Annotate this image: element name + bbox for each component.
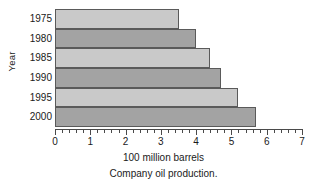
bar-1985 (55, 48, 210, 68)
bar-1995 (55, 88, 238, 108)
x-axis-major-tick (90, 130, 91, 135)
figure-caption: Company oil production. (0, 168, 327, 179)
x-axis-tick-label: 2 (114, 136, 138, 147)
x-axis-tick-label: 7 (290, 136, 314, 147)
x-axis-minor-tick (154, 130, 155, 133)
x-axis-minor-tick (69, 130, 70, 133)
x-axis-minor-tick (83, 130, 84, 133)
x-axis-minor-tick (175, 130, 176, 133)
x-axis-minor-tick (281, 130, 282, 133)
x-axis-minor-tick (147, 130, 148, 133)
x-axis-minor-tick (246, 130, 247, 133)
x-axis-major-tick (196, 130, 197, 135)
x-axis-minor-tick (168, 130, 169, 133)
x-axis-minor-tick (238, 130, 239, 133)
x-axis-major-tick (161, 130, 162, 135)
x-axis-tick-label: 4 (184, 136, 208, 147)
x-axis-major-tick (231, 130, 232, 135)
x-axis-minor-tick (288, 130, 289, 133)
y-axis-tick-label: 2000 (10, 107, 52, 127)
x-axis-minor-tick (104, 130, 105, 133)
y-axis-tick-label: 1990 (10, 68, 52, 88)
x-axis-minor-tick (295, 130, 296, 133)
y-axis-tick-label: 1980 (10, 29, 52, 49)
x-axis-minor-tick (140, 130, 141, 133)
x-axis-tick-label: 0 (43, 136, 67, 147)
x-axis-minor-tick (62, 130, 63, 133)
x-axis-minor-tick (253, 130, 254, 133)
plot-area (55, 9, 302, 127)
bar-1990 (55, 68, 221, 88)
x-axis-minor-tick (189, 130, 190, 133)
x-axis-minor-tick (76, 130, 77, 133)
x-axis-tick-label: 5 (219, 136, 243, 147)
x-axis-minor-tick (111, 130, 112, 133)
x-axis-tick-label: 1 (78, 136, 102, 147)
x-axis-major-tick (267, 130, 268, 135)
x-axis-minor-tick (260, 130, 261, 133)
y-axis-tick-label: 1985 (10, 48, 52, 68)
x-axis-minor-tick (203, 130, 204, 133)
y-axis-tick-label: 1975 (10, 9, 52, 29)
x-axis-title: 100 million barrels (0, 152, 327, 163)
bar-2000 (55, 107, 256, 127)
x-axis-minor-tick (119, 130, 120, 133)
bar-1975 (55, 9, 179, 29)
x-axis-tick-label: 6 (255, 136, 279, 147)
x-axis-major-tick (126, 130, 127, 135)
y-axis-tick-labels: 197519801985199019952000 (10, 9, 52, 127)
y-axis-tick-label: 1995 (10, 88, 52, 108)
x-axis-major-tick (55, 130, 56, 135)
x-axis-minor-tick (182, 130, 183, 133)
x-axis-minor-tick (133, 130, 134, 133)
x-axis-minor-tick (224, 130, 225, 133)
bar-chart: Year 197519801985199019952000 01234567 1… (0, 0, 327, 192)
bar-1980 (55, 29, 196, 49)
x-axis-minor-tick (97, 130, 98, 133)
x-axis-minor-tick (217, 130, 218, 133)
x-axis-minor-tick (274, 130, 275, 133)
x-axis-major-tick (302, 130, 303, 135)
x-axis-minor-tick (210, 130, 211, 133)
x-axis-tick-label: 3 (149, 136, 173, 147)
